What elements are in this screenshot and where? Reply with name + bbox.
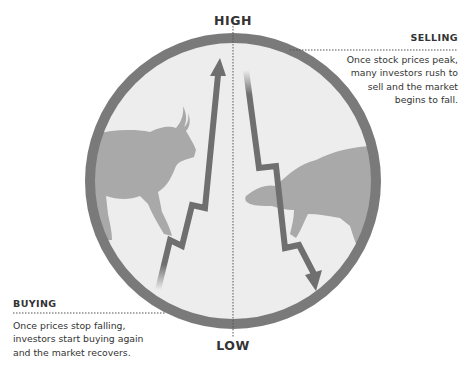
buying-callout: BUYING Once prices stop falling, investo… [13, 300, 193, 359]
market-cycle-diagram: HIGH LOW SELLING Once stock prices peak,… [0, 0, 468, 373]
selling-title: SELLING [283, 31, 458, 44]
buying-description: Once prices stop falling, investors star… [13, 319, 193, 359]
high-label: HIGH [183, 13, 283, 28]
selling-callout: SELLING Once stock prices peak, many inv… [283, 34, 458, 106]
buying-title: BUYING [13, 297, 193, 310]
low-label: LOW [183, 338, 283, 353]
selling-description: Once stock prices peak, many investors r… [283, 53, 458, 106]
